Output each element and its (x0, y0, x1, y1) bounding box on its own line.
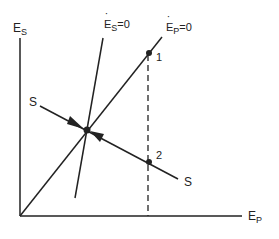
equilibrium-point (84, 127, 91, 134)
point-2 (146, 159, 152, 165)
phase-diagram (0, 0, 279, 239)
point-1 (146, 50, 152, 56)
ep-nullcline-label: EP=0 (166, 22, 192, 33)
arrow-left-icon (67, 116, 84, 129)
es-nullcline (75, 38, 103, 198)
arrow-right-icon (90, 131, 104, 142)
point-2-label: 2 (156, 150, 162, 161)
x-axis-label: EP (248, 210, 262, 222)
y-axis-label: ES (13, 22, 27, 34)
s-label-right: S (184, 176, 192, 188)
point-1-label: 1 (156, 52, 162, 63)
s-label-left: S (29, 96, 37, 108)
s-line (40, 106, 178, 179)
ep-nullcline (20, 37, 162, 216)
es-nullcline-label: ES=0 (104, 19, 130, 30)
